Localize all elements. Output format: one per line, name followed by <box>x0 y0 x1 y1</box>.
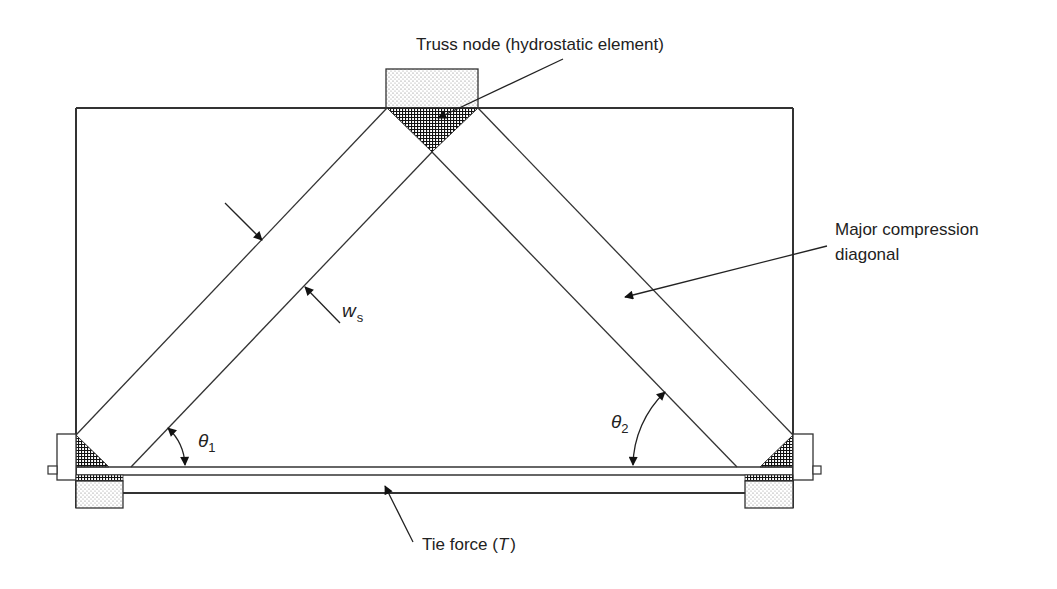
tie-force-leader-arrow <box>385 486 413 542</box>
strut-and-tie-diagram: Truss node (hydrostatic element) Major c… <box>0 0 1057 589</box>
strut-width-label: ws <box>342 300 364 325</box>
left-bearing-strip <box>76 475 123 481</box>
theta1-angle-arc <box>168 428 185 465</box>
tie-force-label: Tie force (T) <box>422 535 516 554</box>
theta2-label: θ2 <box>611 411 629 436</box>
right-bearing-strip <box>745 475 793 481</box>
top-loading-plate <box>386 69 478 108</box>
top-truss-node <box>387 108 478 152</box>
major-diagonal-label-line2: diagonal <box>835 245 899 264</box>
theta1-label: θ1 <box>198 430 216 455</box>
strut-width-arrow-inner <box>305 287 340 323</box>
left-compression-strut <box>76 108 432 467</box>
left-anchor-nub <box>48 466 57 474</box>
beam-outline <box>76 108 793 508</box>
right-anchor-plate <box>793 434 813 480</box>
left-anchor-plate <box>57 434 76 480</box>
theta2-angle-arc <box>633 392 665 465</box>
left-support-node <box>76 435 109 467</box>
right-anchor-nub <box>813 466 821 474</box>
major-diagonal-label-line1: Major compression <box>835 220 979 239</box>
truss-node-label: Truss node (hydrostatic element) <box>416 35 664 54</box>
strut-width-arrow-outer <box>225 203 262 240</box>
left-bearing-pad <box>76 481 123 508</box>
major-diagonal-leader-arrow <box>625 246 827 297</box>
right-support-node <box>760 435 793 467</box>
tension-tie <box>76 467 793 493</box>
right-bearing-pad <box>745 481 793 508</box>
